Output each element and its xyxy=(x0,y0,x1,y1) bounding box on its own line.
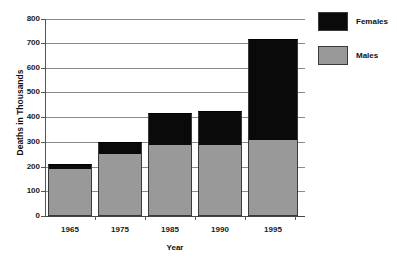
ytick-mark-0 xyxy=(41,216,46,217)
bar-chart: 800 700 600 500 400 300 200 100 0 Deaths… xyxy=(0,0,397,267)
legend-swatch-females-icon xyxy=(318,12,348,31)
bar-segment-females-1995[interactable] xyxy=(248,39,298,140)
bar-stack-1985 xyxy=(148,113,192,216)
bar-stack-1965 xyxy=(48,164,92,216)
axis-baseline-0 xyxy=(45,216,305,217)
bar-segment-males-1990[interactable] xyxy=(198,145,242,216)
xtick-mark-1995 xyxy=(295,216,296,220)
xtick-label-1995: 1995 xyxy=(251,225,295,234)
y-axis-title: Deaths in Thousands xyxy=(16,53,25,173)
bar-segment-females-1975[interactable] xyxy=(98,142,142,154)
ytick-label-700: 700 xyxy=(14,39,40,47)
xtick-mark-1975 xyxy=(145,216,146,220)
bar-segment-females-1985[interactable] xyxy=(148,113,192,145)
legend-label-females: Females xyxy=(356,17,388,26)
ytick-label-800: 800 xyxy=(14,15,40,23)
ytick-label-0: 0 xyxy=(14,212,40,220)
legend-label-males: Males xyxy=(356,51,378,60)
xtick-label-1990: 1990 xyxy=(198,225,242,234)
xtick-label-1975: 1975 xyxy=(98,225,142,234)
bar-group-1990 xyxy=(198,19,242,216)
ytick-label-100: 100 xyxy=(14,187,40,195)
xtick-mark-1990 xyxy=(245,216,246,220)
bar-group-1985 xyxy=(148,19,192,216)
bar-segment-males-1995[interactable] xyxy=(248,140,298,216)
bar-segment-males-1965[interactable] xyxy=(48,169,92,216)
bar-group-1975 xyxy=(98,19,142,216)
legend-swatch-males-icon xyxy=(318,46,348,65)
bar-stack-1990 xyxy=(198,111,242,216)
chart-title xyxy=(0,0,397,4)
xtick-label-1985: 1985 xyxy=(148,225,192,234)
bar-segment-females-1990[interactable] xyxy=(198,111,242,145)
bar-group-1965 xyxy=(48,19,92,216)
bars-layer xyxy=(45,19,305,216)
bar-stack-1995 xyxy=(248,39,298,216)
xtick-mark-1985 xyxy=(195,216,196,220)
x-axis-title: Year xyxy=(45,243,305,252)
xtick-mark-1965 xyxy=(95,216,96,220)
bar-group-1995 xyxy=(248,19,298,216)
bar-segment-males-1975[interactable] xyxy=(98,154,142,216)
xtick-label-1965: 1965 xyxy=(48,225,92,234)
bar-stack-1975 xyxy=(98,142,142,216)
bar-segment-males-1985[interactable] xyxy=(148,145,192,216)
